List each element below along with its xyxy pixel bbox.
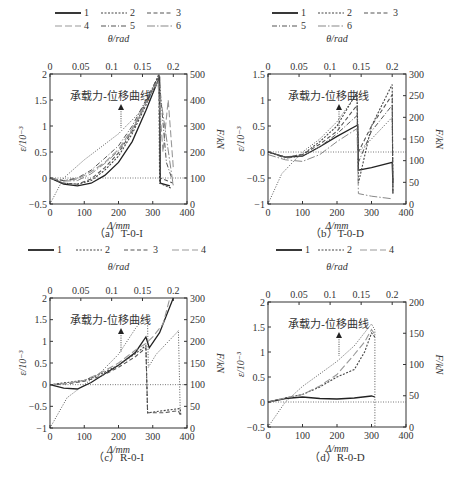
x2-tick-label: 0.15 (134, 61, 152, 72)
y2-axis-label: F/kN (215, 352, 226, 374)
x2-tick-label: 0 (48, 61, 53, 72)
legend-label-3: 3 (393, 7, 398, 18)
legend-label-2: 2 (130, 7, 135, 18)
y2-tick-label: 200 (190, 336, 205, 347)
x2-tick-label: 0.1 (324, 61, 337, 72)
x2-axis-label: θ/rad (108, 33, 131, 44)
legend-label-5: 5 (301, 20, 306, 31)
x2-tick-label: 0.2 (167, 285, 180, 296)
y2-tick-label: 200 (409, 112, 424, 123)
y-tick-label: 0 (42, 379, 47, 390)
legend-label-6: 6 (347, 20, 352, 31)
x-tick-label: 0 (48, 431, 53, 442)
y-tick-label: 1.5 (35, 314, 48, 325)
panel-caption: （a）T-0-I (94, 227, 143, 239)
y2-tick-label: 0 (190, 199, 195, 210)
y-tick-label: 1.5 (253, 322, 266, 333)
x2-tick-label: 0.05 (290, 289, 308, 300)
y2-tick-label: 100 (409, 359, 424, 370)
arrow-up-icon (336, 104, 342, 110)
panel-caption: （b）T-0-D (310, 227, 364, 239)
legend-label-3: 3 (153, 244, 158, 255)
y2-tick-label: 200 (409, 297, 424, 308)
x2-tick-label: 0.05 (72, 285, 90, 296)
y2-tick-label: 0 (409, 199, 414, 210)
y-tick-label: −0.5 (247, 173, 265, 184)
x-tick-label: 200 (111, 431, 126, 442)
y-axis-label: ε/10⁻³ (235, 351, 246, 377)
arrow-up-icon (336, 332, 342, 338)
x2-tick-label: 0.1 (324, 289, 337, 300)
x2-tick-label: 0.2 (386, 289, 399, 300)
y2-tick-label: 100 (190, 173, 205, 184)
series-line-4 (268, 330, 375, 403)
y-tick-label: 2 (260, 297, 265, 308)
y2-tick-label: 50 (409, 390, 419, 401)
chart-panel-d: 010020030040000.050.10.150.2−0.500.511.5… (235, 244, 445, 463)
series-line-2 (268, 333, 375, 402)
legend-label-5: 5 (130, 20, 135, 31)
x-tick-label: 200 (330, 430, 345, 441)
y2-tick-label: 300 (190, 121, 205, 132)
x2-tick-label: 0.15 (352, 61, 370, 72)
curve-annotation: 承载力-位移曲线 (70, 313, 151, 327)
y2-tick-label: 400 (190, 95, 205, 106)
x2-tick-label: 0.15 (352, 289, 370, 300)
y-tick-label: 1 (42, 121, 47, 132)
y-tick-label: 1.5 (35, 95, 48, 106)
y-tick-label: −0.5 (247, 422, 265, 433)
x2-tick-label: 0.2 (167, 61, 180, 72)
chart-panel-c: 010020030040000.050.10.150.2−1−0.500.511… (17, 244, 226, 463)
y-tick-label: 1 (260, 347, 265, 358)
y-tick-label: 2 (42, 69, 47, 80)
x-tick-label: 100 (295, 430, 310, 441)
y2-tick-label: 200 (190, 147, 205, 158)
y2-tick-label: 300 (409, 69, 424, 80)
series-line-6 (268, 129, 392, 199)
series-line-5 (268, 105, 393, 193)
x-tick-label: 0 (48, 207, 53, 218)
y-tick-label: 1.5 (253, 69, 266, 80)
x2-tick-label: 0.05 (72, 61, 90, 72)
x2-tick-label: 0.05 (290, 61, 308, 72)
y2-tick-label: 50 (190, 401, 200, 412)
legend-label-6: 6 (176, 20, 181, 31)
x2-tick-label: 0.15 (134, 285, 152, 296)
y2-tick-label: 150 (409, 134, 424, 145)
x2-tick-label: 0.2 (386, 61, 399, 72)
y-tick-label: 0.5 (253, 121, 266, 132)
x-tick-label: 200 (111, 207, 126, 218)
series-line-F (268, 324, 375, 427)
x2-tick-label: 0 (266, 289, 271, 300)
y2-tick-label: 250 (190, 314, 205, 325)
x-tick-label: 100 (77, 431, 92, 442)
legend: 123456 (55, 7, 181, 31)
series-line-3 (268, 95, 393, 194)
y-tick-label: 0 (260, 147, 265, 158)
series-line-2 (50, 346, 181, 415)
x-tick-label: 200 (330, 207, 345, 218)
x2-tick-label: 0.1 (105, 285, 118, 296)
y-tick-label: 0 (260, 397, 265, 408)
y2-tick-label: 100 (190, 379, 205, 390)
y-tick-label: 0 (42, 173, 47, 184)
y2-tick-label: 300 (190, 293, 205, 304)
y2-tick-label: 150 (409, 328, 424, 339)
legend-label-1: 1 (301, 7, 306, 18)
series-line-1 (50, 298, 173, 389)
x2-tick-label: 0 (48, 285, 53, 296)
x2-tick-label: 0.1 (105, 61, 118, 72)
x-tick-label: 300 (145, 207, 160, 218)
curve-annotation: 承载力-位移曲线 (70, 89, 151, 103)
y-tick-label: −1 (254, 199, 265, 210)
x-tick-label: 0 (266, 207, 271, 218)
x-tick-label: 100 (77, 207, 92, 218)
y-tick-label: 2 (42, 293, 47, 304)
legend-label-1: 1 (57, 244, 62, 255)
y2-tick-label: 0 (190, 423, 195, 434)
y-tick-label: −0.5 (29, 199, 47, 210)
y-tick-label: 0.5 (35, 147, 48, 158)
legend-label-4: 4 (84, 20, 89, 31)
y2-tick-label: 250 (409, 90, 424, 101)
legend-label-2: 2 (105, 244, 110, 255)
